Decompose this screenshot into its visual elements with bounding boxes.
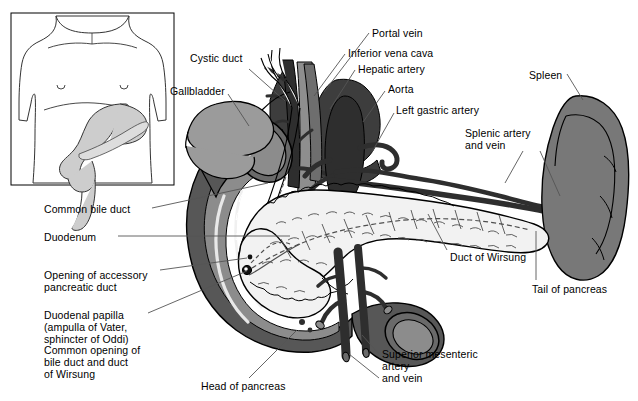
label-duct-of-wirsung: Duct of Wirsung [450,252,526,264]
label-left-gastric-artery: Left gastric artery [396,105,479,117]
label-inferior-vena-cava: Inferior vena cava [348,48,433,60]
label-cystic-duct: Cystic duct [190,53,242,65]
label-hepatic-artery: Hepatic artery [358,64,425,76]
leader-superior-mesenteric-vein [349,354,379,378]
torso-orientation-inset [11,13,174,230]
label-gallbladder: Gallbladder [170,86,225,98]
label-superior-mesenteric-artery-and-vein: Superior mesenteric artery and vein [382,349,478,384]
label-splenic-artery-and-vein: Splenic artery and vein [465,128,531,152]
label-opening-of-accessory-pancreatic-duct: Opening of accessory pancreatic duct [44,270,148,294]
label-aorta: Aorta [388,84,414,96]
leader-splenic-artery [505,151,523,183]
label-duodenum: Duodenum [44,232,96,244]
label-duodenal-papilla: Duodenal papilla (ampulla of Vater, sphi… [44,310,140,381]
anatomy-figure: Cystic ductGallbladderPortal veinInferio… [0,0,638,401]
label-head-of-pancreas: Head of pancreas [201,381,286,393]
label-common-bile-duct: Common bile duct [44,204,130,216]
label-spleen: Spleen [529,70,562,82]
label-tail-of-pancreas: Tail of pancreas [532,284,607,296]
label-portal-vein: Portal vein [372,28,423,40]
spleen-organ [542,96,629,280]
